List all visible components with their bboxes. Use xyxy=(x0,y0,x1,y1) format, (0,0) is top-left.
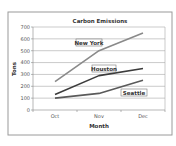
svg-text:New York: New York xyxy=(75,40,104,46)
y-tick-label: 100 xyxy=(20,95,30,101)
series-label-houston: Houston xyxy=(91,65,117,72)
chart-title: Carbon Emissions xyxy=(73,18,129,24)
svg-text:Houston: Houston xyxy=(91,66,117,72)
y-tick-label: 600 xyxy=(20,36,30,42)
series-label-seattle: Seattle xyxy=(121,89,147,96)
y-tick-label: 500 xyxy=(20,48,30,54)
x-axis-label: Month xyxy=(89,123,109,129)
x-tick-label: Oct xyxy=(51,113,60,119)
y-tick-label: 400 xyxy=(20,59,30,65)
y-tick-label: 700 xyxy=(20,24,30,30)
y-tick-label: 300 xyxy=(20,71,30,77)
x-tick-label: Nov xyxy=(94,113,104,119)
y-axis-label: Tons xyxy=(11,61,17,76)
x-tick-label: Dec xyxy=(138,113,148,119)
y-tick-label: 200 xyxy=(20,83,30,89)
series-label-new-york: New York xyxy=(75,39,104,46)
y-tick-label: 0 xyxy=(27,107,30,113)
line-chart: Carbon Emissions 0100200300400500600700 … xyxy=(0,0,176,146)
svg-text:Seattle: Seattle xyxy=(123,90,146,96)
